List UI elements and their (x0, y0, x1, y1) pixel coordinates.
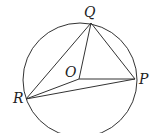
label-Q: Q (84, 4, 96, 20)
label-R: R (12, 90, 24, 106)
circle-diagram: Q O P R (0, 0, 153, 133)
segment-QP (91, 23, 135, 79)
segment-RP (26, 79, 135, 99)
label-O: O (65, 64, 77, 80)
segment-QO (79, 23, 91, 79)
circle (23, 23, 137, 133)
segment-QR (26, 23, 91, 99)
label-P: P (138, 71, 149, 87)
